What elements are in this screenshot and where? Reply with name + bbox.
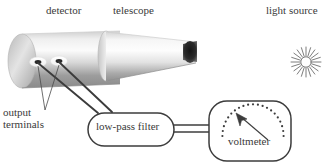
telescope-cone (98, 31, 197, 81)
light-source-sunburst-icon (291, 47, 321, 77)
label-output-terminals-line2: terminals (3, 118, 44, 130)
voltmeter-outline[interactable] (209, 101, 291, 161)
label-output-terminals-line1: output (3, 106, 44, 118)
filter-to-voltmeter-wires (174, 125, 211, 132)
label-voltmeter: voltmeter (228, 135, 270, 147)
telescope-body (106, 32, 196, 81)
label-low-pass-filter: low-pass filter (96, 120, 159, 132)
label-detector: detector (46, 4, 81, 16)
optical-setup-diagram (0, 0, 335, 165)
voltmeter-gauge[interactable] (209, 101, 291, 161)
label-telescope: telescope (113, 4, 154, 16)
label-light-source: light source (266, 4, 318, 16)
diagram-canvas: detector telescope light source output t… (0, 0, 335, 165)
label-output-terminals: output terminals (3, 106, 44, 131)
telescope-aperture-shade (183, 41, 197, 62)
